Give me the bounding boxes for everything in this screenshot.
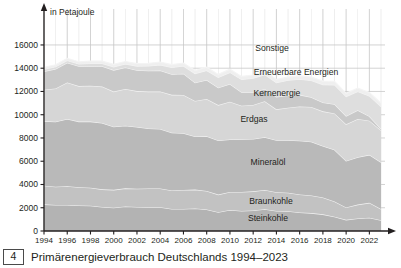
series-label-mineraloel: Mineralöl (251, 157, 286, 167)
figure-caption-text: Primärenergieverbrauch Deutschlands 1994… (31, 251, 288, 263)
series-label-erneuerbare: Erneuerbare Energien (254, 67, 339, 77)
x-axis-tick-label: 2000 (105, 236, 123, 244)
figure-caption: 4 Primärenergieverbrauch Deutschlands 19… (0, 245, 401, 268)
x-axis-tick-label: 2012 (244, 236, 262, 244)
x-axis-tick-label: 2004 (151, 236, 169, 244)
chart-area: 0200040006000800010000120001400016000 19… (0, 0, 401, 244)
series-label-steinkohle: Steinkohle (248, 213, 288, 223)
area-series-layer (44, 58, 381, 231)
x-axis-tick-label: 1994 (35, 236, 53, 244)
series-label-sonstige: Sonstige (255, 43, 289, 53)
series-label-erdgas: Erdgas (240, 114, 267, 124)
y-axis-tick-label: 10000 (14, 110, 38, 120)
x-axis-tick-label: 2008 (198, 236, 216, 244)
y-axis-tick-label: 12000 (14, 86, 38, 96)
series-label-kernenergie: Kernenergie (254, 88, 301, 98)
x-axis-tick-label: 2022 (360, 236, 378, 244)
y-axis-tick-label: 4000 (19, 179, 38, 189)
y-axis-tick-label: 0 (33, 226, 38, 236)
figure-container: 0200040006000800010000120001400016000 19… (0, 0, 401, 268)
x-axis-tick-label: 1996 (58, 236, 76, 244)
x-axis-tick-label: 2018 (314, 236, 332, 244)
series-label-braunkohle: Braunkohle (249, 196, 293, 206)
x-axis-ticks: 1994199619982000200220042006200820102012… (35, 231, 379, 244)
x-axis-tick-label: 2020 (337, 236, 355, 244)
x-axis-tick-label: 2016 (291, 236, 309, 244)
y-axis-tick-label: 2000 (19, 203, 38, 213)
x-axis-tick-label: 2014 (268, 236, 286, 244)
y-axis-tick-label: 8000 (19, 133, 38, 143)
y-axis-ticks: 0200040006000800010000120001400016000 (14, 40, 44, 236)
stacked-area-chart: 0200040006000800010000120001400016000 19… (0, 0, 401, 244)
y-axis-tick-label: 14000 (14, 63, 38, 73)
figure-number-box: 4 (3, 249, 24, 265)
x-axis-tick-label: 2002 (128, 236, 146, 244)
x-axis-tick-label: 2006 (175, 236, 193, 244)
x-axis-tick-label: 1998 (82, 236, 100, 244)
y-axis-unit-label: in Petajoule (50, 7, 95, 17)
y-axis-tick-label: 16000 (14, 40, 38, 50)
x-axis-tick-label: 2010 (221, 236, 239, 244)
y-axis-tick-label: 6000 (19, 156, 38, 166)
